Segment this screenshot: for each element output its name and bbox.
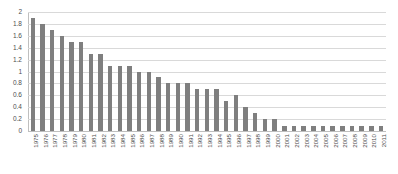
- x-slot: 1989: [163, 133, 173, 174]
- x-slot: 1982: [96, 133, 106, 174]
- x-slot: 1983: [105, 133, 115, 174]
- x-slot: 1991: [183, 133, 193, 174]
- x-slot: 1986: [134, 133, 144, 174]
- x-slot: 2002: [289, 133, 299, 174]
- bar-slot: [96, 12, 106, 131]
- x-slot: 2001: [279, 133, 289, 174]
- bar-slot: [86, 12, 96, 131]
- x-axis-tick-label: 2011: [381, 127, 387, 140]
- bar-slot: [183, 12, 193, 131]
- y-axis-tick-label: 1.6: [13, 33, 22, 40]
- x-slot: 1977: [47, 133, 57, 174]
- x-slot: 1976: [38, 133, 48, 174]
- bar-slot: [115, 12, 125, 131]
- y-axis-tick-label: 2: [18, 9, 22, 16]
- x-slot: 1988: [154, 133, 164, 174]
- bar: [156, 77, 160, 131]
- y-axis-tick-label: 0: [18, 128, 22, 135]
- bar: [60, 36, 64, 131]
- y-axis-tick-label: 0.6: [13, 92, 22, 99]
- bar-slot: [57, 12, 67, 131]
- x-slot: 1998: [250, 133, 260, 174]
- bar-slot: [338, 12, 348, 131]
- y-axis-tick-label: 0.8: [13, 80, 22, 87]
- y-axis-tick-label: 1.2: [13, 56, 22, 63]
- x-slot: 2000: [270, 133, 280, 174]
- x-slot: 1987: [144, 133, 154, 174]
- bar-slot: [28, 12, 38, 131]
- bar-slot: [221, 12, 231, 131]
- x-slot: 1992: [192, 133, 202, 174]
- bar-slot: [125, 12, 135, 131]
- bar: [98, 54, 102, 131]
- bar-slot: [67, 12, 77, 131]
- x-slot: 1978: [57, 133, 67, 174]
- bar: [50, 30, 54, 131]
- bar: [176, 83, 180, 131]
- bar-slot: [299, 12, 309, 131]
- y-axis-tick-label: 1: [18, 68, 22, 75]
- x-axis-tick-labels: 1975197619771978197919801981198219831984…: [28, 133, 386, 174]
- bar-slot: [163, 12, 173, 131]
- x-slot: 1980: [76, 133, 86, 174]
- bar: [234, 95, 238, 131]
- bar-slot: [308, 12, 318, 131]
- bar-slot: [144, 12, 154, 131]
- plot-area: [28, 12, 386, 131]
- x-slot: 1994: [212, 133, 222, 174]
- x-axis-tick-label-text: 2011: [381, 134, 387, 147]
- x-slot: 1995: [221, 133, 231, 174]
- bar: [40, 24, 44, 131]
- x-slot: 1996: [231, 133, 241, 174]
- y-axis-tick-label: 0.4: [13, 104, 22, 111]
- bar: [166, 83, 170, 131]
- bar-slot: [134, 12, 144, 131]
- bar: [214, 89, 218, 131]
- x-slot: 1984: [115, 133, 125, 174]
- bar-slot: [154, 12, 164, 131]
- bar: [185, 83, 189, 131]
- bar-slot: [76, 12, 86, 131]
- bar: [79, 42, 83, 131]
- bar-slot: [289, 12, 299, 131]
- y-axis-tick-label: 1.4: [13, 44, 22, 51]
- x-slot: 2011: [376, 133, 386, 174]
- x-slot: 1997: [241, 133, 251, 174]
- x-slot: 1993: [202, 133, 212, 174]
- x-slot: 1981: [86, 133, 96, 174]
- bar-slot: [105, 12, 115, 131]
- x-slot: 2007: [338, 133, 348, 174]
- x-slot: 2003: [299, 133, 309, 174]
- bar-slot: [192, 12, 202, 131]
- x-slot: 2008: [347, 133, 357, 174]
- bar-slot: [231, 12, 241, 131]
- bar: [108, 66, 112, 131]
- x-slot: 1975: [28, 133, 38, 174]
- bar-slot: [38, 12, 48, 131]
- bar-slot: [212, 12, 222, 131]
- bar-slot: [250, 12, 260, 131]
- bar-slot: [318, 12, 328, 131]
- x-slot: 2006: [328, 133, 338, 174]
- bar: [205, 89, 209, 131]
- bar-slot: [279, 12, 289, 131]
- y-axis-tick-label: 0.2: [13, 116, 22, 123]
- x-slot: 2009: [357, 133, 367, 174]
- x-slot: 1999: [260, 133, 270, 174]
- bar-chart: 00.20.40.60.811.21.41.61.82 197519761977…: [0, 0, 398, 174]
- y-axis-tick-labels: 00.20.40.60.811.21.41.61.82: [0, 12, 25, 131]
- bar-slot: [260, 12, 270, 131]
- bar-slot: [202, 12, 212, 131]
- bar-slot: [173, 12, 183, 131]
- x-slot: 2010: [367, 133, 377, 174]
- bar-series: [28, 12, 386, 131]
- bar: [127, 66, 131, 131]
- bar-slot: [347, 12, 357, 131]
- bar: [195, 89, 199, 131]
- bar: [89, 54, 93, 131]
- bar: [137, 72, 141, 132]
- x-slot: 2004: [308, 133, 318, 174]
- bar-slot: [357, 12, 367, 131]
- bar-slot: [47, 12, 57, 131]
- bar-slot: [241, 12, 251, 131]
